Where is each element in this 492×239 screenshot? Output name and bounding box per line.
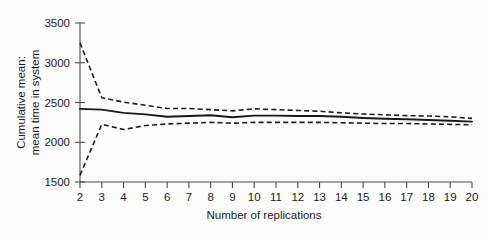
data-series-group: Upper 95% confidence limitCumulative mea…	[80, 43, 472, 175]
x-tick-label-17: 17	[400, 191, 413, 203]
x-tick-label-5: 5	[142, 191, 148, 203]
x-tick-label-20: 20	[466, 191, 479, 203]
figure-container: 15002000250030003500 2345678910111213141…	[0, 0, 492, 239]
y-tick-label-1500: 1500	[44, 176, 70, 188]
x-tick-label-12: 12	[291, 191, 304, 203]
x-tick-label-19: 19	[444, 191, 457, 203]
chart-canvas: 15002000250030003500 2345678910111213141…	[0, 0, 492, 239]
x-tick-label-18: 18	[422, 191, 435, 203]
x-tick-label-4: 4	[120, 191, 127, 203]
y-tick-label-2000: 2000	[44, 136, 70, 148]
y-axis-title-line-2: mean time in system	[29, 50, 41, 155]
x-tick-label-14: 14	[335, 191, 348, 203]
x-tick-label-2: 2	[77, 191, 83, 203]
y-tick-label-3500: 3500	[44, 17, 70, 29]
x-axis: 234567891011121314151617181920	[77, 182, 479, 203]
x-tick-label-13: 13	[313, 191, 326, 203]
y-axis-title-line-1: Cumulative mean:	[15, 56, 27, 149]
x-tick-label-16: 16	[378, 191, 391, 203]
x-tick-label-10: 10	[248, 191, 261, 203]
y-tick-label-3000: 3000	[44, 57, 70, 69]
y-axis: 15002000250030003500	[44, 17, 85, 188]
y-tick-label-2500: 2500	[44, 97, 70, 109]
series-line-lower-ci: Lower 95% confidence limit	[80, 122, 472, 175]
x-tick-label-3: 3	[99, 191, 105, 203]
x-tick-label-6: 6	[164, 191, 170, 203]
x-axis-title: Number of replications	[206, 209, 321, 221]
x-tick-label-8: 8	[207, 191, 213, 203]
x-tick-label-9: 9	[229, 191, 235, 203]
series-line-upper-ci: Upper 95% confidence limit	[80, 43, 472, 119]
x-tick-label-15: 15	[357, 191, 370, 203]
x-tick-label-7: 7	[186, 191, 192, 203]
x-tick-label-11: 11	[270, 191, 282, 203]
